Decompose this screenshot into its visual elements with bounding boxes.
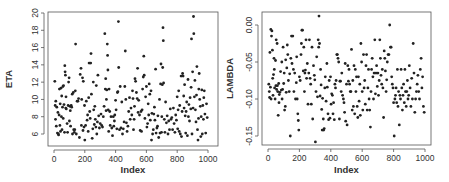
data-point bbox=[90, 93, 93, 96]
data-point bbox=[296, 112, 299, 115]
data-point bbox=[104, 77, 107, 80]
data-point bbox=[55, 106, 58, 109]
data-point bbox=[157, 136, 160, 139]
data-point bbox=[184, 132, 187, 135]
data-point bbox=[396, 68, 399, 71]
data-point bbox=[190, 86, 193, 89]
data-point bbox=[58, 114, 61, 117]
data-point bbox=[151, 133, 154, 136]
data-point bbox=[352, 105, 355, 108]
y-axis: 0.00-0.05-0.10-0.15 bbox=[244, 16, 258, 145]
data-point bbox=[190, 38, 193, 41]
data-point bbox=[270, 35, 273, 38]
data-point bbox=[308, 38, 311, 41]
data-point bbox=[194, 79, 197, 82]
data-point bbox=[107, 130, 110, 133]
data-point bbox=[292, 68, 295, 71]
data-point bbox=[365, 64, 368, 67]
data-point bbox=[87, 130, 90, 133]
data-point bbox=[281, 88, 284, 91]
data-point bbox=[423, 111, 426, 114]
data-point bbox=[351, 109, 354, 112]
data-point bbox=[121, 133, 124, 136]
data-point bbox=[302, 46, 305, 49]
data-point bbox=[70, 106, 73, 109]
data-point bbox=[153, 106, 156, 109]
data-point bbox=[138, 114, 141, 117]
data-point bbox=[103, 105, 106, 108]
data-point bbox=[185, 110, 188, 113]
data-point bbox=[375, 64, 378, 67]
data-point bbox=[178, 104, 181, 107]
data-point bbox=[400, 87, 403, 90]
data-point bbox=[150, 89, 153, 92]
data-point bbox=[107, 69, 110, 72]
data-point bbox=[353, 64, 356, 67]
data-point bbox=[113, 114, 116, 117]
data-point bbox=[378, 79, 381, 82]
data-point bbox=[124, 98, 127, 101]
data-point bbox=[90, 52, 93, 55]
data-point bbox=[98, 127, 101, 130]
data-point bbox=[93, 105, 96, 108]
data-point bbox=[277, 82, 280, 85]
data-point bbox=[103, 32, 106, 35]
data-point bbox=[310, 103, 313, 106]
data-point bbox=[117, 66, 120, 69]
data-point bbox=[340, 90, 343, 93]
data-point bbox=[198, 98, 201, 101]
data-point bbox=[77, 97, 80, 100]
data-point bbox=[287, 79, 290, 82]
data-point bbox=[188, 120, 191, 123]
data-point bbox=[392, 87, 395, 90]
data-point bbox=[206, 116, 209, 119]
data-point bbox=[307, 103, 310, 106]
data-point bbox=[279, 70, 282, 73]
data-point bbox=[136, 67, 139, 70]
data-point bbox=[309, 83, 312, 86]
data-point bbox=[344, 120, 347, 123]
data-point bbox=[199, 105, 202, 108]
data-point bbox=[65, 95, 68, 98]
data-point bbox=[383, 57, 386, 60]
y-tick-label: 18 bbox=[30, 25, 40, 35]
y-tick-label: 20 bbox=[30, 8, 40, 18]
data-point bbox=[65, 108, 68, 111]
data-point bbox=[422, 105, 425, 108]
data-point bbox=[405, 90, 408, 93]
data-point bbox=[341, 94, 344, 97]
data-point bbox=[189, 96, 192, 99]
data-point bbox=[117, 20, 120, 23]
data-point bbox=[152, 128, 155, 131]
data-point bbox=[170, 116, 173, 119]
data-point bbox=[176, 95, 179, 98]
data-point bbox=[381, 68, 384, 71]
data-point bbox=[123, 85, 126, 88]
data-point bbox=[348, 68, 351, 71]
data-point bbox=[397, 90, 400, 93]
data-point bbox=[408, 64, 411, 67]
data-point bbox=[350, 48, 353, 51]
x-axis-title: Index bbox=[334, 164, 360, 175]
data-point bbox=[361, 109, 364, 112]
data-point bbox=[411, 98, 414, 101]
data-point bbox=[105, 98, 108, 101]
data-point bbox=[301, 29, 304, 32]
data-point bbox=[313, 78, 316, 81]
data-point bbox=[320, 84, 323, 87]
data-point bbox=[271, 30, 274, 33]
data-point bbox=[54, 100, 57, 103]
data-point bbox=[164, 131, 167, 134]
data-point bbox=[304, 69, 307, 72]
data-point bbox=[66, 122, 69, 125]
data-point bbox=[342, 98, 345, 101]
data-point bbox=[289, 57, 292, 60]
data-point bbox=[268, 90, 271, 93]
data-point bbox=[81, 76, 84, 79]
data-point bbox=[125, 121, 128, 124]
data-point bbox=[293, 72, 296, 75]
data-point bbox=[369, 126, 372, 129]
x-tick-label: 1000 bbox=[199, 154, 218, 164]
data-point bbox=[289, 135, 292, 138]
data-point bbox=[195, 121, 198, 124]
